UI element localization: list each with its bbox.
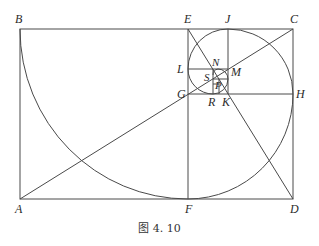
label-S: S [204,71,210,83]
label-N: N [211,56,220,68]
arc-J-to-L [188,29,228,69]
label-F: F [184,202,193,216]
arc-H-to-J [228,29,293,94]
golden-spiral-diagram: B E J C L N M S P G R K H A F D [0,0,319,246]
arc-F-to-H [188,94,293,199]
label-R: R [207,95,216,109]
figure-caption: 图 4. 10 [0,219,319,235]
label-K: K [221,95,231,109]
label-G: G [177,87,186,101]
label-C: C [290,12,299,26]
diagonal-ED [188,29,293,199]
label-H: H [295,87,306,101]
label-A: A [14,202,23,216]
label-L: L [176,62,184,76]
label-P: P [214,79,222,91]
arc-B-to-F [20,29,188,199]
label-B: B [15,12,23,26]
label-E: E [183,12,192,26]
label-M: M [230,65,242,79]
label-J: J [225,12,231,26]
label-D: D [289,202,299,216]
diagonal-AC [20,29,293,199]
